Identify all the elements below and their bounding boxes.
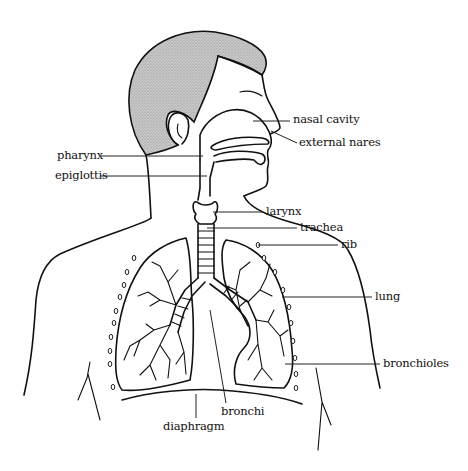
right-lung	[222, 240, 293, 388]
label-lung: lung	[375, 291, 400, 303]
label-nasal-cavity: nasal cavity	[293, 114, 360, 126]
respiratory-system-diagram	[0, 0, 468, 471]
pharynx-tube	[198, 160, 200, 200]
ribs-left	[108, 255, 136, 389]
label-rib: rib	[341, 239, 357, 251]
neck-left	[146, 155, 151, 218]
hair	[129, 31, 266, 155]
label-bronchi: bronchi	[221, 406, 264, 418]
label-diaphragm: diaphragm	[163, 421, 224, 433]
tongue-mouth	[214, 151, 265, 164]
label-external-nares: external nares	[299, 137, 380, 149]
diaphragm-line	[122, 389, 302, 404]
label-pharynx: pharynx	[57, 150, 103, 162]
label-bronchioles: bronchioles	[383, 358, 449, 370]
trachea-rings	[198, 224, 214, 278]
label-trachea: trachea	[300, 222, 343, 234]
label-larynx: larynx	[266, 206, 301, 218]
left-lung	[116, 238, 194, 390]
head-outline	[218, 56, 280, 196]
label-epiglottis: epiglottis	[55, 170, 108, 182]
torso-left	[24, 218, 151, 395]
palate	[211, 137, 269, 150]
larynx-shape	[193, 202, 217, 224]
